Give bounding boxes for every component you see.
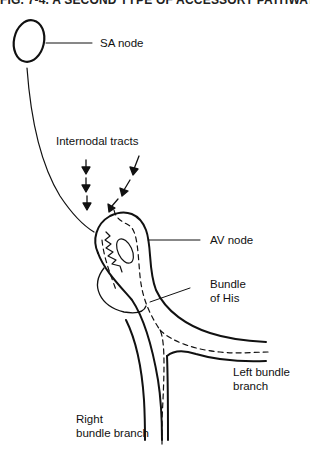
label-left-bundle-line2: branch bbox=[233, 379, 268, 393]
sa-node-shape bbox=[10, 17, 48, 64]
av-node-inner-oval bbox=[113, 236, 137, 265]
label-right-bundle-line1: Right bbox=[76, 412, 103, 426]
label-right-bundle-line2: bundle branch bbox=[76, 426, 149, 440]
sa-to-av-fiber bbox=[27, 68, 94, 232]
label-left-bundle-line1: Left bundle bbox=[233, 365, 290, 379]
accessory-pathway-bulge bbox=[98, 268, 146, 313]
label-av-node: AV node bbox=[210, 233, 253, 247]
internodal-tract-arrows bbox=[82, 156, 139, 212]
label-sa-node: SA node bbox=[100, 36, 143, 50]
label-bundle-of-his-line1: Bundle bbox=[210, 277, 246, 291]
label-bundle-of-his-line2: of His bbox=[210, 291, 239, 305]
label-internodal-tracts: Internodal tracts bbox=[56, 134, 138, 148]
